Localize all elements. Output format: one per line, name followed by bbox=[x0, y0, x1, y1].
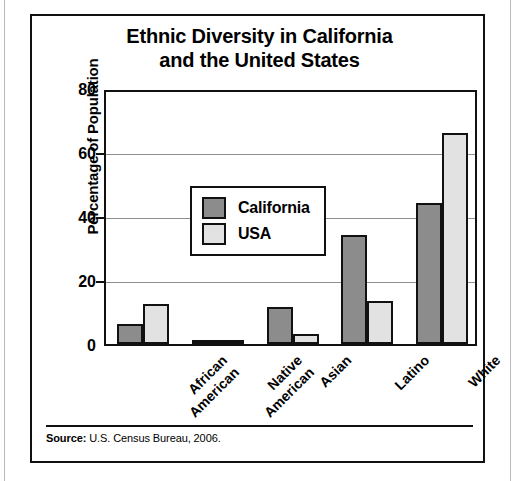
bar-usa-african-american bbox=[143, 304, 169, 344]
x-axis-label-asian: Asian bbox=[316, 352, 355, 391]
source-note: Source: U.S. Census Bureau, 2006. bbox=[46, 431, 221, 445]
bar-usa-white bbox=[442, 133, 468, 344]
legend-item-usa: USA bbox=[202, 221, 310, 247]
bar-california-latino bbox=[341, 235, 367, 344]
bar-california-native-american bbox=[192, 340, 218, 344]
source-label: Source: bbox=[46, 432, 86, 444]
y-tick-mark-40 bbox=[96, 217, 104, 219]
bar-usa-asian bbox=[293, 334, 319, 344]
y-tick-label-0: 0 bbox=[36, 338, 96, 354]
plot-area: California USA bbox=[104, 90, 477, 346]
source-divider bbox=[46, 425, 473, 427]
y-tick-label-60: 60 bbox=[36, 146, 96, 162]
legend-label-california: California bbox=[238, 200, 310, 216]
figure-page: Ethnic Diversity in California and the U… bbox=[0, 0, 517, 481]
bar-california-white bbox=[416, 203, 442, 344]
bar-usa-latino bbox=[367, 301, 393, 344]
x-axis-label-latino: Latino bbox=[391, 352, 433, 394]
legend-item-california: California bbox=[202, 195, 310, 221]
source-text: U.S. Census Bureau, 2006. bbox=[86, 432, 220, 444]
chart-figure-frame: Ethnic Diversity in California and the U… bbox=[30, 14, 485, 463]
y-tick-mark-20 bbox=[96, 281, 104, 283]
y-tick-label-20: 20 bbox=[36, 274, 96, 290]
bar-usa-native-american bbox=[218, 340, 244, 344]
y-tick-label-80: 80 bbox=[36, 82, 96, 98]
bar-california-african-american bbox=[117, 324, 143, 344]
legend-swatch-usa bbox=[202, 223, 226, 245]
legend-swatch-california bbox=[202, 197, 226, 219]
y-tick-label-40: 40 bbox=[36, 210, 96, 226]
x-axis-label-native-american: NativeAmerican bbox=[249, 352, 318, 421]
bar-california-asian bbox=[267, 307, 293, 344]
x-axis-category-labels: AfricanAmericanNativeAmericanAsianLatino… bbox=[104, 348, 477, 444]
x-axis-label-white: White bbox=[465, 352, 504, 391]
chart-legend: California USA bbox=[190, 186, 326, 256]
page-rule-left bbox=[4, 0, 5, 481]
y-tick-mark-60 bbox=[96, 153, 104, 155]
x-axis-label-african-american: AfricanAmerican bbox=[174, 352, 243, 421]
page-rule-right bbox=[510, 0, 511, 481]
legend-label-usa: USA bbox=[238, 226, 271, 242]
y-axis-tick-labels: 80 60 40 20 0 bbox=[32, 90, 104, 346]
